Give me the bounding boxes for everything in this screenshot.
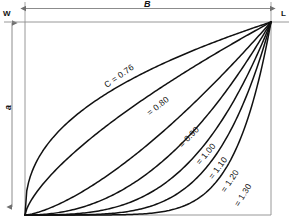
dimension-label-b: B: [144, 0, 151, 9]
dimension-label-a: a: [4, 105, 13, 110]
curve-c-1.10: [25, 22, 271, 215]
corner-label-l: L: [281, 10, 286, 18]
curve-c-0.76: [25, 22, 271, 215]
curve-family-figure: W L B a C = 0.76= 0.80= 0.90= 1.00= 1.10…: [0, 0, 293, 224]
curve-c-1.00: [25, 22, 271, 215]
curve-group: [25, 22, 271, 215]
curve-c-1.20: [25, 22, 271, 215]
curve-c-1.30: [25, 22, 271, 215]
curve-c-0.80: [25, 22, 271, 215]
curve-c-0.90: [25, 22, 271, 215]
corner-label-w: W: [3, 10, 11, 18]
